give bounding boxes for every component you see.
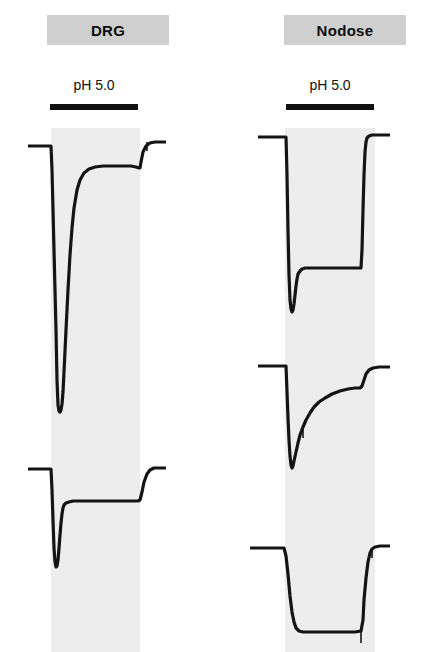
drg-trace-transient-plus-plateau [28,468,166,567]
panel-nodose: Nodose pH 5.0 [222,0,444,652]
trace-group-nodose [222,0,444,652]
trace-group-drg [0,0,222,652]
nodose-trace-v-dip-slow-recovery [258,366,390,468]
drg-trace-large-desensitizing [28,142,166,412]
nodose-trace-square-sustained [250,546,390,632]
figure-root: DRG pH 5.0 Nodose pH 5.0 [0,0,444,652]
nodose-trace-fast-spike-plateau [258,135,390,312]
panel-drg: DRG pH 5.0 [0,0,222,652]
